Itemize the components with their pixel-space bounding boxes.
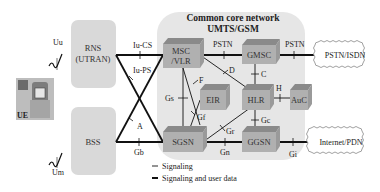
msc-label: MSC [172,46,190,56]
uu-radio-icon [49,54,62,68]
gmsc-label: GMSC [247,50,271,60]
iu-ps-label: Iu-PS [133,66,151,75]
auc-label: AuC [291,95,307,105]
ggsn-node: GGSN [242,126,280,152]
gc-label: Gc [261,116,271,125]
pstn-isdn-label: PSTN/ISDN [325,51,366,60]
hlr-label: HLR [248,95,265,105]
core-title-line1: Common core network [186,13,280,23]
d-label: D [229,66,235,75]
gn-label: Gn [220,148,230,157]
c-label: C [261,70,266,79]
um-label: Um [52,168,65,177]
network-diagram: Common core network UMTS/GSM RNS (UTRAN)… [0,0,380,192]
um-radio-icon [49,153,62,167]
legend: Signaling Signaling and user data [152,162,237,183]
vlr-label: /VLR [171,56,191,66]
uu-label: Uu [53,38,63,47]
utran-label: (UTRAN) [76,54,111,64]
gb-label: Gb [134,148,144,157]
rns-label: RNS [85,43,102,53]
ue-label: UE [17,111,28,120]
gr-label: Gr [226,127,235,136]
msc-vlr-node: MSC /VLR [163,38,204,68]
gf-label: Gf [197,113,206,122]
legend-signaling-label: Signaling [162,162,193,171]
pstn-interface-label-2: PSTN [285,40,305,49]
pstn-isdn-cloud: PSTN/ISDN [314,41,366,68]
sgsn-node: SGSN [163,126,207,152]
auc-node: AuC [290,84,312,110]
iu-cs-label: Iu-CS [133,41,152,50]
pstn-interface-label-1: PSTN [213,40,233,49]
bss-label: BSS [85,137,100,147]
internet-pdn-label: Internet/PDN [319,138,362,147]
h-label: H [276,84,282,93]
ggsn-label: GGSN [247,137,270,147]
core-title-line2: UMTS/GSM [207,24,259,34]
gs-label: Gs [165,94,174,103]
legend-signaling-user-data-label: Signaling and user data [162,174,237,183]
eir-node: EIR [200,84,230,110]
internet-pdn-cloud: Internet/PDN [307,127,364,154]
sgsn-label: SGSN [172,137,194,147]
a-label: A [137,122,143,131]
f-label: F [199,76,204,85]
gi-label: Gi [289,150,298,159]
hlr-node: HLR [242,84,274,110]
eir-label: EIR [206,95,220,105]
gmsc-node: GMSC [242,39,280,64]
